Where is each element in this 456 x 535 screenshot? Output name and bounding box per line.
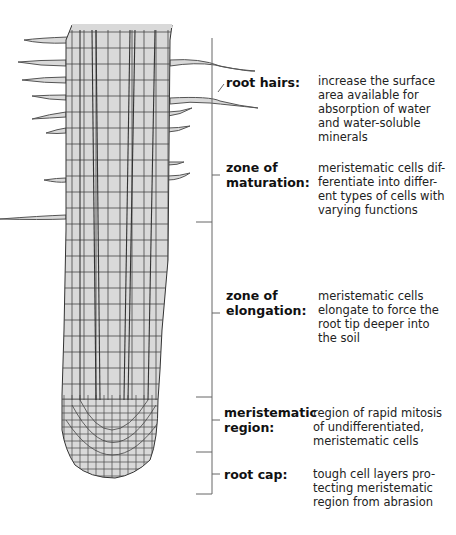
desc-line: minerals (318, 130, 456, 144)
label-line: zone of (226, 288, 306, 303)
label-line: elongation: (226, 303, 306, 318)
label-line: region: (224, 420, 317, 435)
label-line: zone of (226, 160, 310, 175)
desc-line: tecting meristematic (313, 481, 456, 495)
desc-line: absorption of water (318, 102, 456, 116)
desc-line: ent types of cells with (318, 189, 456, 203)
desc-line: ferentiate into differ- (318, 175, 456, 189)
desc-line: meristematic cells (318, 289, 456, 303)
desc-meristematic-region: region of rapid mitosis of undifferentia… (313, 406, 456, 448)
desc-line: increase the surface (318, 74, 456, 88)
desc-line: region from abrasion (313, 495, 456, 509)
desc-zone-of-elongation: meristematic cells elongate to force the… (318, 289, 456, 345)
desc-line: the soil (318, 331, 456, 345)
label-meristematic-region: meristematic region: (224, 405, 317, 435)
desc-line: root tip deeper into (318, 317, 456, 331)
desc-line: of undifferentiated, (313, 420, 456, 434)
desc-line: meristematic cells dif- (318, 161, 456, 175)
label-zone-of-elongation: zone of elongation: (226, 288, 306, 318)
root-top-cut (72, 24, 172, 28)
desc-line: and water-soluble (318, 116, 456, 130)
label-root-cap: root cap: (224, 467, 287, 482)
desc-root-cap: tough cell layers pro- tecting meristema… (313, 467, 456, 509)
desc-zone-of-maturation: meristematic cells dif- ferentiate into … (318, 161, 456, 217)
label-root-hairs: root hairs: (226, 75, 300, 90)
label-zone-of-maturation: zone of maturation: (226, 160, 310, 190)
desc-line: area available for (318, 88, 456, 102)
root-hairs-left (0, 37, 68, 220)
desc-line: varying functions (318, 203, 456, 217)
label-line: meristematic (224, 405, 317, 420)
desc-line: elongate to force the (318, 303, 456, 317)
label-line: maturation: (226, 175, 310, 190)
desc-line: region of rapid mitosis (313, 406, 456, 420)
desc-root-hairs: increase the surface area available for … (318, 74, 456, 144)
desc-line: tough cell layers pro- (313, 467, 456, 481)
desc-line: meristematic cells (313, 434, 456, 448)
zone-bracket (196, 38, 224, 494)
